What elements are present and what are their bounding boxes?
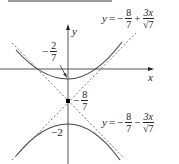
pointer-arrow-head-icon	[63, 73, 67, 78]
frac-den: 7	[51, 52, 56, 63]
frac-num: 8	[125, 7, 132, 19]
eq-term: 3x √7	[143, 111, 154, 134]
eq-equals: =	[109, 117, 115, 128]
label-fraction: 2 7	[50, 40, 57, 63]
eq-lhs: y	[102, 117, 107, 128]
eq-sign: −	[117, 13, 123, 24]
asymptote-equation-lower: y = − 8 7 − 3x √7	[102, 111, 154, 134]
y-axis-label: y	[72, 26, 77, 37]
term-den: √7	[143, 123, 154, 134]
frac-den: 7	[126, 19, 131, 30]
term-den: √7	[143, 19, 154, 30]
term-num: 3x	[143, 7, 154, 19]
label-sign: −	[73, 95, 79, 106]
y-axis-arrow-icon	[66, 24, 70, 30]
eq-fraction: 8 7	[125, 111, 132, 134]
upper-vertex-label: − 2 7	[42, 40, 57, 63]
eq-sign: −	[117, 117, 123, 128]
frac-den: 7	[126, 123, 131, 134]
eq-equals: =	[109, 13, 115, 24]
x-axis-label: x	[148, 72, 153, 83]
hyperbola-diagram: y x y = − 8 7 + 3x √7 y = − 8 7 − 3x √7 …	[0, 0, 179, 164]
frac-num: 8	[81, 89, 88, 101]
asymptote-equation-upper: y = − 8 7 + 3x √7	[102, 7, 154, 30]
label-sign: −	[42, 46, 48, 57]
frac-num: 2	[50, 40, 57, 52]
eq-op: −	[134, 117, 140, 128]
center-point	[66, 99, 70, 103]
frac-num: 8	[125, 111, 132, 123]
frac-den: 7	[82, 101, 87, 112]
hyperbola-upper-branch	[16, 42, 122, 79]
eq-op: +	[134, 13, 140, 24]
eq-lhs: y	[102, 13, 107, 24]
lower-vertex-label: −2	[51, 127, 63, 138]
center-label: − 8 7	[73, 89, 88, 112]
eq-fraction: 8 7	[125, 7, 132, 30]
label-fraction: 8 7	[81, 89, 88, 112]
term-num: 3x	[143, 111, 154, 123]
eq-term: 3x √7	[143, 7, 154, 30]
